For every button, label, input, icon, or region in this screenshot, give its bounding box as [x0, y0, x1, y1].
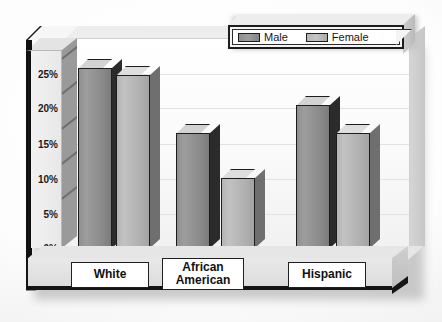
category-label-text-line2: American	[176, 274, 231, 287]
y-axis: 25% 20% 15% 10% 5% 0%	[26, 50, 62, 248]
bar-front-face	[336, 133, 370, 248]
category-label-text-line1: African	[182, 261, 223, 274]
bar-front-face	[221, 178, 255, 248]
bar-hispanic-male	[296, 105, 330, 248]
y-tick-label-25: 25%	[38, 69, 58, 80]
female-swatch-icon	[306, 33, 328, 42]
legend-label-female: Female	[332, 31, 369, 43]
bar-chart: 25% 20% 15% 10% 5% 0%	[0, 0, 442, 322]
bar-african-american-female	[221, 178, 255, 248]
y-tick-label-10: 10%	[38, 174, 58, 185]
bar-side-face	[370, 124, 381, 248]
category-label-white: White	[71, 262, 149, 288]
legend-top-bevel	[228, 14, 414, 25]
category-label-text: Hispanic	[302, 268, 352, 281]
bar-white-female	[116, 75, 150, 248]
wall-right-side	[409, 26, 425, 258]
legend-items: Male Female	[232, 29, 400, 45]
axis-side-hatched	[62, 38, 77, 248]
y-tick-label-5: 5%	[44, 209, 58, 220]
bar-side-face	[255, 169, 266, 248]
bar-hispanic-female	[336, 133, 370, 248]
legend-label-male: Male	[264, 31, 288, 43]
cut-off-text-ghost	[150, 0, 430, 4]
bar-front-face	[116, 75, 150, 248]
bar-white-male	[78, 68, 112, 248]
bar-side-face	[150, 66, 161, 248]
bar-front-face	[176, 133, 210, 248]
y-tick-label-20: 20%	[38, 103, 58, 114]
male-swatch-icon	[238, 33, 260, 42]
y-tick-label-15: 15%	[38, 139, 58, 150]
bar-front-face	[78, 68, 112, 248]
bar-side-face	[210, 124, 221, 248]
category-label-african-american: African American	[162, 258, 244, 290]
category-label-text: White	[94, 268, 127, 281]
bar-front-face	[296, 105, 330, 248]
bar-african-american-male	[176, 133, 210, 248]
category-label-hispanic: Hispanic	[288, 262, 366, 288]
